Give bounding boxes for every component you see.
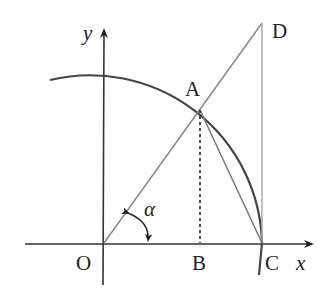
angle-label-alpha: α <box>144 197 156 221</box>
point-label-o: O <box>76 251 91 275</box>
point-label-d: D <box>272 19 287 43</box>
point-label-c: C <box>265 251 279 275</box>
point-label-a: A <box>185 77 201 101</box>
point-label-b: B <box>192 251 206 275</box>
y-axis-label: y <box>81 21 93 45</box>
segment-ac <box>200 110 262 243</box>
segment-od <box>104 23 262 243</box>
x-axis-label: x <box>295 251 306 275</box>
y-axis <box>103 30 104 285</box>
trig-diagram: y x O A B C D α <box>0 0 335 298</box>
